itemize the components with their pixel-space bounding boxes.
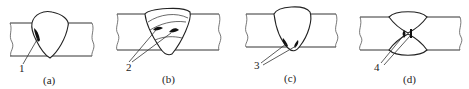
weld-defect-diagram: 1 (a) 2 (b) 3 (c) (0, 0, 469, 89)
weld-bead-bottom (389, 34, 427, 55)
plate-break-left (360, 17, 362, 50)
panel-caption: (a) (43, 74, 56, 87)
callout-number: 1 (19, 62, 25, 74)
weld-bead-top (389, 12, 427, 33)
panel-caption: (b) (162, 73, 175, 86)
panel-caption: (c) (284, 72, 297, 85)
callout-number: 3 (254, 59, 260, 71)
panel-b: 2 (b) (117, 8, 221, 86)
plate-break-left (10, 23, 13, 56)
plate-break-right (219, 14, 221, 50)
panel-a: 1 (a) (10, 11, 94, 87)
callout-number: 4 (374, 61, 380, 73)
panel-d: 4 (d) (360, 12, 462, 86)
plate-break-right (92, 23, 94, 56)
weld-bead (274, 7, 311, 51)
plate-break-right (336, 14, 338, 47)
plate-break-left (246, 14, 248, 47)
callout-number: 2 (126, 61, 132, 73)
panel-c: 3 (c) (246, 7, 338, 85)
leader-line (23, 38, 38, 64)
plate-break-right (460, 17, 462, 50)
defect-marker (410, 29, 412, 38)
plate-break-left (117, 14, 119, 50)
weld-bead (145, 8, 190, 54)
panel-caption: (d) (403, 73, 416, 86)
leader-line (129, 30, 156, 62)
